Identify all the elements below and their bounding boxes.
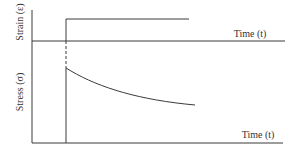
stress-relaxation-diagram: Time (t) Time (t) Strain (ε) Stress (σ) (0, 0, 298, 154)
strain-xlabel: Time (t) (234, 28, 267, 40)
strain-ylabel: Strain (ε) (14, 3, 26, 40)
stress-relaxation-curve (66, 68, 195, 105)
strain-step-line (66, 19, 189, 41)
stress-ylabel: Stress (σ) (14, 73, 26, 111)
stress-xlabel: Time (t) (242, 129, 275, 141)
